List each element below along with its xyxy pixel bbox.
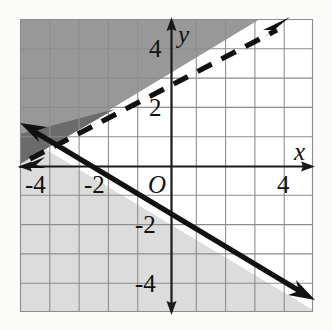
y-tick-label-minus-4: -4 (135, 271, 156, 296)
x-axis-label: x (294, 139, 305, 164)
y-tick-label-minus-2: -2 (135, 212, 156, 237)
y-tick-label-4: 4 (149, 36, 162, 61)
x-tick-label-4: 4 (277, 172, 290, 197)
figure-container: -4 -2 4 4 2 -2 -4 O x y (0, 0, 332, 330)
x-tick-label-minus-2: -2 (84, 172, 105, 197)
origin-label: O (148, 172, 166, 197)
coordinate-plane-graph (0, 0, 332, 330)
y-tick-label-2: 2 (149, 95, 162, 120)
y-axis-label: y (178, 22, 189, 47)
x-tick-label-minus-4: -4 (25, 172, 46, 197)
